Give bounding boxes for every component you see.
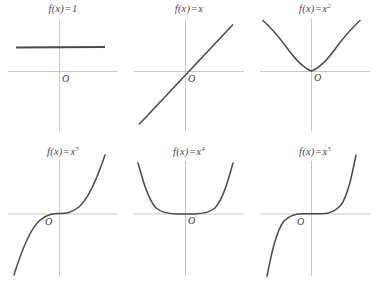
graph-panel-linear: f(x)=x O — [126, 0, 252, 143]
label-expression: x — [198, 3, 203, 14]
label-exponent: 4 — [201, 145, 204, 152]
panel-label-quadratic: f(x)=x2 — [252, 2, 378, 15]
origin-label: O — [188, 74, 195, 84]
label-equals: = — [314, 146, 322, 157]
origin-label: O — [314, 73, 321, 83]
label-equals: = — [314, 3, 322, 14]
label-equals: = — [62, 146, 70, 157]
origin-label: O — [188, 216, 195, 226]
curve-constant — [16, 47, 105, 48]
origin-label: O — [297, 217, 304, 227]
panel-label-constant: f(x)=1 — [0, 2, 126, 15]
label-argument: (x) — [50, 146, 62, 157]
label-expression: 1 — [72, 3, 77, 14]
plot-constant — [0, 0, 126, 144]
label-argument: (x) — [302, 3, 314, 14]
origin-label: O — [45, 217, 52, 227]
label-argument: (x) — [178, 3, 190, 14]
graph-panel-quartic: f(x)=x4 O — [126, 143, 252, 287]
label-argument: (x) — [176, 146, 188, 157]
plot-linear — [126, 0, 252, 144]
label-equals: = — [188, 146, 196, 157]
panel-label-linear: f(x)=x — [126, 2, 252, 15]
graph-panel-quintic: f(x)=x5 O — [252, 143, 378, 287]
plot-cubic — [0, 143, 126, 287]
graph-panel-quadratic: f(x)=x2 O — [252, 0, 378, 143]
panel-label-cubic: f(x)=x3 — [0, 145, 126, 158]
origin-label: O — [62, 74, 69, 84]
label-equals: = — [64, 3, 72, 14]
graph-panel-constant: f(x)=1 O — [0, 0, 126, 143]
label-argument: (x) — [302, 146, 314, 157]
plot-quintic — [252, 143, 378, 287]
label-exponent: 5 — [327, 145, 330, 152]
label-exponent: 2 — [327, 2, 330, 9]
graph-panel-cubic: f(x)=x3 O — [0, 143, 126, 287]
panel-label-quartic: f(x)=x4 — [126, 145, 252, 158]
panel-label-quintic: f(x)=x5 — [252, 145, 378, 158]
label-exponent: 3 — [75, 145, 78, 152]
label-argument: (x) — [52, 3, 64, 14]
function-graphs-figure: f(x)=1 O f(x)=x O f(x)=x2 O f(x)=x3 O — [0, 0, 378, 287]
